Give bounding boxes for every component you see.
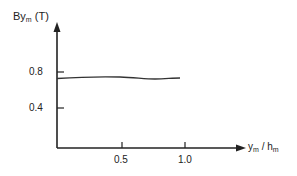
- x-axis-label: ym / hm: [248, 141, 279, 153]
- series-line-bym: [57, 77, 180, 79]
- y-axis-label: Bym (T): [13, 10, 49, 23]
- y-tick-label-0.4: 0.4: [29, 102, 43, 113]
- y-tick-label-0.8: 0.8: [29, 66, 43, 77]
- x-tick-label-1.0: 1.0: [178, 154, 192, 165]
- y-axis-arrow-icon: [54, 22, 61, 32]
- x-axis-arrow-icon: [236, 145, 246, 152]
- x-tick-label-0.5: 0.5: [114, 154, 128, 165]
